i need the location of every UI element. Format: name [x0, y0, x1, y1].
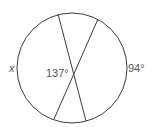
left-arc-label: x	[8, 62, 15, 74]
vertex-angle-label: 137°	[46, 67, 69, 79]
right-arc-label: 94°	[128, 62, 145, 74]
circle-diagram: x 137° 94°	[0, 0, 152, 127]
